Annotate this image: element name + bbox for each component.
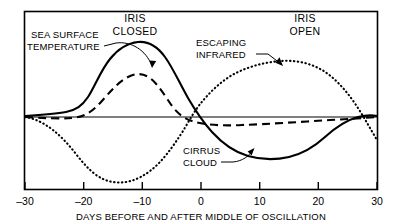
olr-label-line1: ESCAPING — [196, 37, 246, 48]
chart-svg: SEA SURFACE TEMPERATURE ESCAPING INFRARE… — [0, 0, 398, 224]
sst-label-line2: TEMPERATURE — [27, 41, 100, 52]
cirrus-label-line2: CLOUD — [183, 157, 217, 168]
sst-label-line1: SEA SURFACE — [31, 29, 99, 40]
sst-leader-curve — [116, 43, 152, 66]
iris-closed-line2: CLOSED — [113, 25, 158, 37]
iris-open-line2: OPEN — [290, 25, 321, 37]
olr-label-line2: INFRARED — [196, 49, 246, 60]
phase-label-iris-open: IRIS OPEN — [290, 12, 321, 37]
iris-open-line1: IRIS — [294, 12, 316, 24]
x-tick-label-30: 30 — [371, 195, 383, 207]
cirrus-arrowhead — [248, 148, 255, 156]
cirrus-label-line1: CIRRUS — [183, 145, 220, 156]
x-axis-title: DAYS BEFORE AND AFTER MIDDLE OF OSCILLAT… — [76, 211, 326, 222]
phase-label-iris-closed: IRIS CLOSED — [113, 12, 158, 37]
x-tick-label-10: 10 — [254, 195, 266, 207]
sst-leader-dash — [104, 43, 116, 46]
iris-closed-line1: IRIS — [124, 12, 146, 24]
x-tick-label-minus20: –20 — [75, 195, 93, 207]
x-tick-label-minus10: –10 — [134, 195, 152, 207]
x-tick-label-zero: 0 — [198, 195, 204, 207]
x-tick-labels: –30 –20 –10 0 10 20 30 — [16, 195, 383, 207]
x-tick-label-minus30: –30 — [16, 195, 34, 207]
annotation-cirrus-cloud: CIRRUS CLOUD — [183, 145, 255, 168]
x-tick-label-20: 20 — [312, 195, 324, 207]
sst-arrowhead — [149, 60, 156, 68]
oscillation-chart-figure: SEA SURFACE TEMPERATURE ESCAPING INFRARE… — [0, 0, 398, 224]
